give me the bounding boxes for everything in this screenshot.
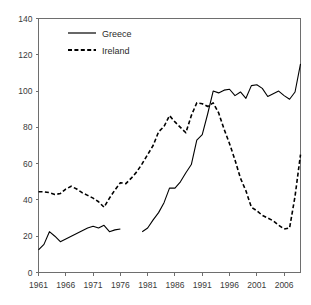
series-line-greece bbox=[142, 64, 300, 232]
x-tick-label: 2001 bbox=[247, 280, 266, 290]
y-tick-label: 80 bbox=[23, 122, 33, 132]
axis-frame bbox=[39, 19, 301, 273]
x-axis-tick-labels: 1961196619711976198119861991199620012006 bbox=[29, 280, 294, 290]
chart-legend: GreeceIreland bbox=[68, 29, 132, 56]
x-tick-label: 1971 bbox=[84, 280, 103, 290]
y-tick-label: 120 bbox=[18, 50, 32, 60]
x-tick-label: 1961 bbox=[29, 280, 48, 290]
x-tick-label: 1966 bbox=[56, 280, 75, 290]
legend-label-greece: Greece bbox=[102, 29, 132, 39]
y-tick-label: 60 bbox=[23, 159, 33, 169]
y-tick-label: 40 bbox=[23, 195, 33, 205]
y-tick-label: 20 bbox=[23, 231, 33, 241]
legend-label-ireland: Ireland bbox=[102, 46, 130, 56]
x-tick-label: 2006 bbox=[275, 280, 294, 290]
series-line-greece bbox=[39, 225, 121, 249]
y-tick-label: 140 bbox=[18, 14, 32, 24]
plot-frame bbox=[39, 19, 301, 273]
x-tick-label: 1986 bbox=[165, 280, 184, 290]
y-tick-label: 0 bbox=[28, 268, 33, 278]
line-chart: 020406080100120140 196119661971197619811… bbox=[0, 0, 311, 305]
x-tick-label: 1981 bbox=[138, 280, 157, 290]
x-tick-label: 1976 bbox=[111, 280, 130, 290]
x-tick-label: 1991 bbox=[193, 280, 212, 290]
series-line-ireland bbox=[39, 103, 301, 229]
y-axis-tick-labels: 020406080100120140 bbox=[18, 14, 32, 278]
chart-container: 020406080100120140 196119661971197619811… bbox=[0, 0, 311, 305]
data-series-group bbox=[39, 64, 301, 250]
y-tick-label: 100 bbox=[18, 86, 32, 96]
x-tick-label: 1996 bbox=[220, 280, 239, 290]
